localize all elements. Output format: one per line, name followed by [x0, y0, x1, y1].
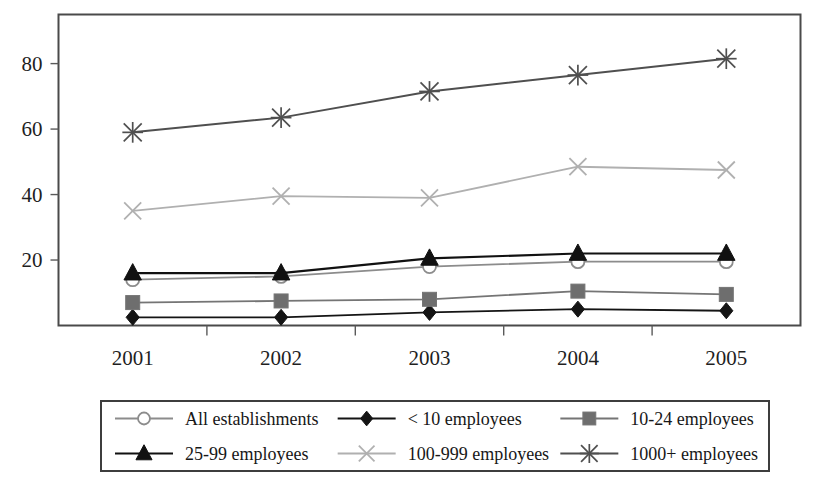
x-category-label: 2002	[260, 346, 302, 370]
x-category-label: 2004	[557, 346, 600, 370]
asterisk-marker	[716, 48, 737, 69]
square-marker	[571, 284, 585, 298]
chart-canvas: 20406080 20012002200320042005 All establ…	[0, 0, 825, 485]
square-marker	[719, 287, 733, 301]
legend-label: 100-999 employees	[408, 444, 549, 464]
asterisk-marker	[580, 444, 599, 463]
legend-label: All establishments	[185, 409, 319, 429]
square-marker	[583, 412, 596, 425]
square-marker	[274, 294, 288, 308]
square-marker	[423, 292, 437, 306]
y-tick-label: 80	[22, 52, 43, 76]
line-chart: 20406080 20012002200320042005 All establ…	[0, 0, 825, 485]
square-marker	[126, 296, 140, 310]
y-tick-label: 20	[22, 248, 43, 272]
legend-label: 25-99 employees	[185, 444, 308, 464]
x-category-label: 2003	[409, 346, 451, 370]
y-tick-label: 60	[22, 117, 43, 141]
legend-item-1000-employees[interactable]: 1000+ employees	[560, 444, 758, 464]
circle-open-marker	[138, 413, 150, 425]
x-category-label: 2005	[705, 346, 747, 370]
legend-label: < 10 employees	[408, 409, 522, 429]
y-tick-label: 40	[22, 183, 43, 207]
asterisk-marker	[419, 81, 440, 102]
legend-label: 10-24 employees	[630, 409, 753, 429]
asterisk-marker	[122, 122, 143, 143]
x-category-label: 2001	[112, 346, 154, 370]
asterisk-marker	[568, 65, 589, 86]
asterisk-marker	[271, 107, 292, 128]
legend-label: 1000+ employees	[630, 444, 758, 464]
